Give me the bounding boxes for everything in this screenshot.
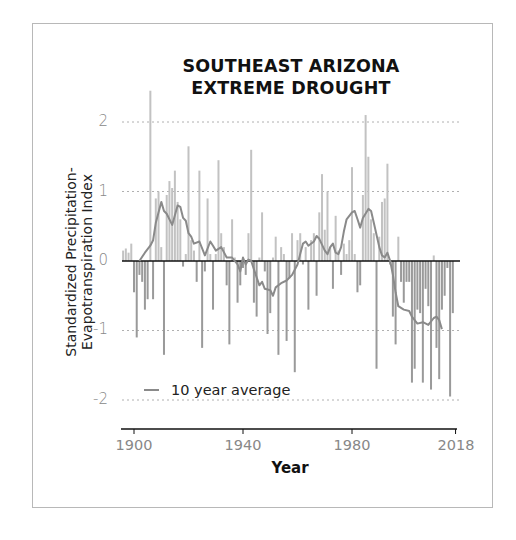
y-tick-label: -1 bbox=[78, 320, 108, 338]
data-bar bbox=[335, 216, 337, 261]
data-bar bbox=[346, 254, 348, 261]
data-bar bbox=[147, 261, 149, 299]
data-bar bbox=[193, 251, 195, 261]
data-bar bbox=[125, 248, 127, 261]
data-bar bbox=[190, 240, 192, 261]
data-bar bbox=[185, 254, 187, 261]
data-bar bbox=[430, 261, 432, 390]
data-bar bbox=[384, 198, 386, 261]
data-bar bbox=[397, 237, 399, 261]
data-bar bbox=[138, 261, 140, 275]
data-bar bbox=[403, 261, 405, 303]
x-tick-label: 1980 bbox=[322, 437, 382, 453]
data-bar bbox=[406, 261, 408, 282]
data-bar bbox=[340, 261, 342, 275]
data-bar bbox=[179, 219, 181, 261]
x-tick-label: 2018 bbox=[426, 437, 486, 453]
data-bar bbox=[217, 160, 219, 261]
data-bar bbox=[411, 261, 413, 383]
data-bar bbox=[291, 233, 293, 261]
data-bar bbox=[324, 230, 326, 261]
data-bar bbox=[149, 91, 151, 261]
data-bar bbox=[419, 261, 421, 313]
data-bar bbox=[316, 261, 318, 296]
x-tick-label: 1900 bbox=[104, 437, 164, 453]
data-bar bbox=[433, 255, 435, 261]
data-bar bbox=[305, 247, 307, 261]
data-bar bbox=[283, 254, 285, 261]
data-bar bbox=[128, 253, 130, 261]
data-bar bbox=[196, 261, 198, 282]
data-bar bbox=[277, 261, 279, 355]
data-bar bbox=[256, 261, 258, 317]
data-bar bbox=[188, 146, 190, 261]
data-bar bbox=[425, 261, 427, 289]
data-bar bbox=[400, 261, 402, 282]
data-bar bbox=[182, 261, 184, 267]
data-bar bbox=[449, 261, 451, 397]
data-bar bbox=[395, 261, 397, 344]
y-tick-label: 2 bbox=[78, 112, 108, 130]
data-bar bbox=[416, 261, 418, 310]
data-bar bbox=[198, 171, 200, 261]
data-bar bbox=[313, 233, 315, 261]
data-bar bbox=[215, 254, 217, 261]
data-bar bbox=[204, 261, 206, 271]
data-bar bbox=[275, 237, 277, 261]
legend: 10 year average bbox=[144, 380, 290, 400]
data-bar bbox=[354, 254, 356, 261]
data-bar bbox=[122, 251, 124, 261]
data-bar bbox=[427, 261, 429, 306]
data-bar bbox=[141, 261, 143, 282]
data-bar bbox=[163, 261, 165, 355]
data-bar bbox=[365, 115, 367, 261]
data-bar bbox=[286, 261, 288, 341]
data-bar bbox=[231, 219, 233, 261]
legend-line-swatch bbox=[144, 389, 159, 391]
data-bar bbox=[386, 164, 388, 261]
data-bar bbox=[280, 247, 282, 261]
data-bar bbox=[136, 261, 138, 337]
data-bar bbox=[130, 244, 132, 261]
data-bar bbox=[376, 261, 378, 369]
data-bar bbox=[226, 261, 228, 285]
data-bar bbox=[446, 261, 448, 268]
data-bar bbox=[356, 261, 358, 292]
x-axis-label: Year bbox=[250, 459, 330, 477]
data-bar bbox=[435, 261, 437, 348]
data-bar bbox=[294, 261, 296, 372]
data-bar bbox=[362, 195, 364, 261]
data-bar bbox=[264, 261, 266, 271]
y-tick-label: 1 bbox=[78, 182, 108, 200]
data-bar bbox=[261, 212, 263, 261]
data-bar bbox=[444, 261, 446, 296]
x-tick-label: 1940 bbox=[213, 437, 273, 453]
data-bar bbox=[212, 261, 214, 310]
data-bar bbox=[267, 261, 269, 334]
data-bar bbox=[160, 247, 162, 261]
data-bar bbox=[373, 233, 375, 261]
data-bar bbox=[441, 261, 443, 310]
data-bar bbox=[209, 254, 211, 261]
data-bar bbox=[359, 261, 361, 285]
y-tick-label: 0 bbox=[78, 251, 108, 269]
data-bar bbox=[228, 261, 230, 344]
y-tick-label: -2 bbox=[78, 390, 108, 408]
data-bar bbox=[201, 261, 203, 348]
data-bar bbox=[152, 261, 154, 299]
data-bar bbox=[158, 192, 160, 262]
data-bar bbox=[332, 261, 334, 289]
data-bar bbox=[144, 261, 146, 310]
data-bar bbox=[452, 261, 454, 313]
data-bar bbox=[250, 150, 252, 261]
data-bar bbox=[408, 261, 410, 282]
data-bar bbox=[370, 219, 372, 261]
data-bar bbox=[269, 261, 271, 313]
data-bar bbox=[166, 195, 168, 261]
legend-label: 10 year average bbox=[171, 382, 290, 398]
data-bar bbox=[343, 244, 345, 261]
data-bar bbox=[414, 261, 416, 369]
data-bar bbox=[348, 240, 350, 261]
data-bar bbox=[133, 261, 135, 292]
data-bar bbox=[247, 233, 249, 261]
